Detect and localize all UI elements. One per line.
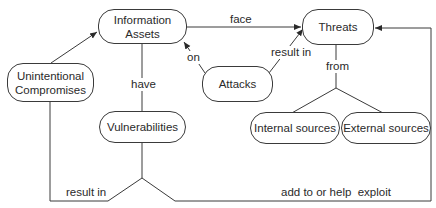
node-threats[interactable]: Threats: [302, 9, 374, 45]
edge-label-add-exploit: add to or help exploit: [281, 186, 391, 199]
edge-unintentional-to-assets: [51, 32, 97, 63]
node-vulnerabilities-label: Vulnerabilities: [107, 120, 178, 134]
edge-from-external: [336, 88, 385, 114]
node-unintentional-compromises[interactable]: Unintentional Compromises: [7, 63, 94, 102]
node-unintentional-line1: Unintentional: [15, 69, 86, 83]
edge-from-internal: [290, 88, 336, 114]
node-attacks[interactable]: Attacks: [202, 66, 273, 102]
node-external-sources-label: External sources: [343, 121, 429, 135]
edge-label-vuln-result-in: result in: [66, 186, 106, 199]
node-information-assets-line2: Assets: [114, 27, 172, 41]
node-external-sources[interactable]: External sources: [341, 112, 431, 144]
node-internal-sources[interactable]: Internal sources: [250, 112, 340, 144]
node-attacks-label: Attacks: [219, 77, 257, 91]
edge-label-from: from: [326, 60, 349, 73]
edge-label-attacks-result-in: result in: [271, 46, 311, 59]
node-internal-sources-label: Internal sources: [254, 121, 336, 135]
node-information-assets[interactable]: Information Assets: [98, 9, 187, 44]
edge-label-on: on: [186, 51, 201, 64]
node-threats-label: Threats: [319, 20, 358, 34]
node-information-assets-line1: Information: [114, 13, 172, 27]
edge-label-have: have: [131, 78, 156, 91]
node-vulnerabilities[interactable]: Vulnerabilities: [99, 111, 186, 143]
edge-label-face: face: [230, 13, 252, 26]
node-unintentional-line2: Compromises: [15, 83, 86, 97]
